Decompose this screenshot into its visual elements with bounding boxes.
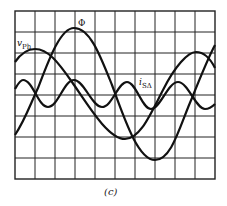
oscillogram	[0, 0, 227, 206]
label-i-sd-sub: SΔ	[142, 82, 152, 90]
label-phi: Φ	[78, 19, 85, 28]
figure-caption: (c)	[104, 186, 117, 197]
label-v-ph-sub: Ph	[22, 43, 31, 51]
label-phi-text: Φ	[78, 18, 85, 28]
label-v-ph: vPh	[17, 39, 31, 51]
label-i-sd: iSΔ	[139, 78, 152, 90]
